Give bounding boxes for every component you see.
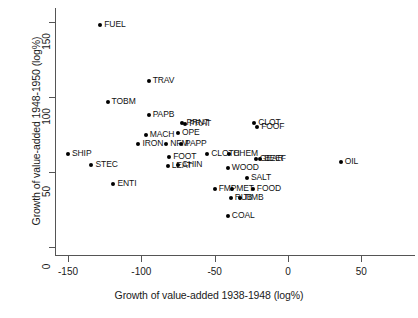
data-point-marker xyxy=(98,23,102,27)
data-point-marker xyxy=(230,187,234,191)
y-tick-label: 50 xyxy=(41,172,52,212)
data-point-label: TIMB xyxy=(244,192,264,202)
data-point-marker xyxy=(254,157,258,161)
data-point-marker xyxy=(255,125,259,129)
data-point-marker xyxy=(166,164,170,168)
data-point-label: PAPP xyxy=(185,138,207,148)
data-point-marker xyxy=(147,79,151,83)
data-point-label: TRAV xyxy=(153,75,175,85)
data-point-label: TOBM xyxy=(112,96,136,106)
data-point-marker xyxy=(164,142,168,146)
data-point-label: CHIN xyxy=(182,159,202,169)
data-point-label: WOOD xyxy=(232,162,259,172)
data-point-label: BEEF xyxy=(264,153,286,163)
data-point-marker xyxy=(245,176,249,180)
data-point-marker xyxy=(66,152,70,156)
data-point-label: FUEL xyxy=(104,19,125,29)
plot-area: FUELTRAVTOBMPAPBPRNTPRATOPEMACHNFMPAPPIR… xyxy=(55,8,415,256)
data-point-marker xyxy=(144,133,148,137)
data-point-marker xyxy=(213,187,217,191)
data-point-marker xyxy=(176,131,180,135)
data-point-marker xyxy=(176,163,180,167)
x-tick-mark xyxy=(215,256,216,262)
data-point-label: FOOF xyxy=(261,121,284,131)
x-tick-label: 0 xyxy=(268,266,308,277)
data-point-label: OPE xyxy=(182,127,200,137)
x-tick-mark xyxy=(141,256,142,262)
x-tick-mark xyxy=(288,256,289,262)
scatter-chart: Growth of value-added 1948-1950 (log%) G… xyxy=(0,0,418,318)
data-point-marker xyxy=(106,100,110,104)
data-point-label: COAL xyxy=(232,210,255,220)
data-point-marker xyxy=(111,182,115,186)
data-point-marker xyxy=(147,113,151,117)
x-axis-title: Growth of value-added 1938-1948 (log%) xyxy=(0,289,418,301)
data-point-label: SHIP xyxy=(72,148,91,158)
data-point-marker xyxy=(136,142,140,146)
x-tick-label: 50 xyxy=(341,266,381,277)
x-tick-label: -100 xyxy=(121,266,161,277)
data-point-label: OIL xyxy=(345,156,358,166)
data-point-marker xyxy=(238,196,242,200)
x-tick-label: -50 xyxy=(195,266,235,277)
data-point-marker xyxy=(167,155,171,159)
data-point-marker xyxy=(258,157,262,161)
data-point-label: STEC xyxy=(95,159,117,169)
data-point-marker xyxy=(339,160,343,164)
data-point-label: IRON xyxy=(142,138,163,148)
data-point-marker xyxy=(226,214,230,218)
data-point-label: SALT xyxy=(251,172,271,182)
y-tick-label: 150 xyxy=(41,22,52,62)
data-point-label: ENTI xyxy=(117,178,136,188)
data-point-marker xyxy=(252,121,256,125)
data-point-marker xyxy=(226,166,230,170)
x-tick-mark xyxy=(68,256,69,262)
data-point-marker xyxy=(89,163,93,167)
x-tick-mark xyxy=(361,256,362,262)
y-tick-label: 100 xyxy=(41,97,52,137)
data-point-marker xyxy=(205,152,209,156)
data-point-marker xyxy=(229,196,233,200)
data-point-marker xyxy=(179,142,183,146)
x-tick-label: -150 xyxy=(48,266,88,277)
data-point-marker xyxy=(251,187,255,191)
data-point-label: PAPB xyxy=(153,109,175,119)
